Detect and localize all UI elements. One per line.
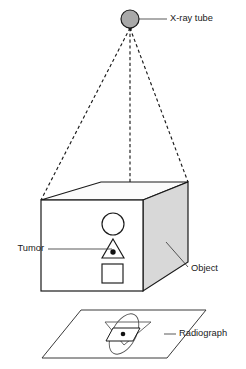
label-object: Object	[191, 263, 218, 273]
xray-ray-right	[130, 28, 188, 182]
label-radiograph: Radiograph	[179, 328, 227, 338]
xray-radiography-diagram: X-ray tube Tumor Object Radiograph	[0, 0, 246, 369]
object-side-face	[143, 182, 188, 291]
inclusion-circle	[102, 213, 124, 235]
tumor-dot	[110, 249, 115, 254]
xray-ray-left	[41, 28, 130, 200]
object-front-face	[41, 200, 143, 291]
diagram-canvas: X-ray tube Tumor Object Radiograph	[0, 0, 246, 369]
object-box-group	[41, 182, 188, 291]
label-xray-tube: X-ray tube	[170, 13, 213, 23]
inclusion-square	[102, 264, 123, 283]
xray-tube-icon	[121, 10, 139, 28]
projection-tumor-dot	[121, 332, 126, 337]
xray-beam-group	[41, 28, 188, 200]
label-tumor: Tumor	[17, 243, 44, 253]
xray-tube-group	[121, 10, 139, 31]
